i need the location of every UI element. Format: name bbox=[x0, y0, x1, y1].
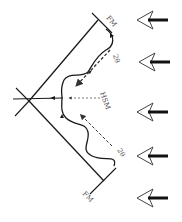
top-mirror-line bbox=[29, 20, 98, 101]
label-hsm: HSM bbox=[98, 91, 112, 111]
bottom-dashed-arrow bbox=[82, 116, 112, 146]
label-fm-top: FM bbox=[104, 14, 118, 28]
optical-axis-line bbox=[13, 98, 63, 99]
incoming-arrow-5 bbox=[137, 189, 168, 207]
incoming-arrow-1 bbox=[137, 11, 168, 29]
incoming-arrow-3 bbox=[137, 103, 168, 121]
bottom-mirror-tick bbox=[90, 168, 116, 194]
vertex-cross-lower bbox=[15, 101, 29, 116]
diagram-canvas: FM 2θ HSM 2θ FM bbox=[0, 0, 182, 222]
label-two-theta-top: 2θ bbox=[111, 53, 121, 63]
incoming-arrow-2 bbox=[139, 53, 170, 71]
axis-arrowhead bbox=[50, 96, 55, 100]
bottom-mirror-line bbox=[29, 101, 104, 181]
incoming-arrow-4 bbox=[137, 147, 168, 165]
top-dashed-arrow bbox=[78, 50, 110, 84]
label-two-theta-bottom: 2θ bbox=[115, 147, 126, 159]
top-wavy-beam bbox=[62, 29, 113, 98]
